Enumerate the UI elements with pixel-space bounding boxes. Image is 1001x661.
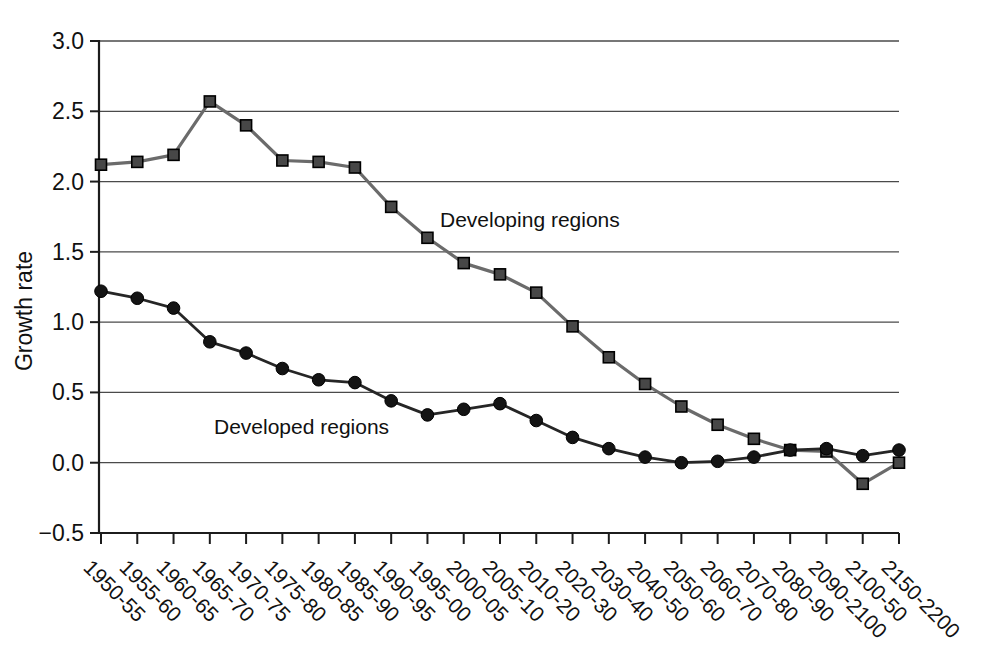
series-label-developed-regions: Developed regions: [214, 415, 389, 439]
y-tick-label: 3.0: [2, 28, 84, 54]
square-marker: [603, 352, 614, 363]
circle-marker: [711, 455, 724, 468]
circle-marker: [457, 403, 470, 416]
square-marker: [204, 96, 215, 107]
series-label-developing-regions: Developing regions: [440, 208, 620, 232]
circle-marker: [856, 449, 869, 462]
square-marker: [894, 457, 905, 468]
square-marker: [857, 478, 868, 489]
square-marker: [422, 232, 433, 243]
circle-marker: [95, 285, 108, 298]
circle-marker: [204, 336, 217, 349]
square-marker: [495, 269, 506, 280]
y-tick-label: 0.0: [2, 450, 84, 476]
square-marker: [458, 258, 469, 269]
growth-rate-chart: Growth rate 3.02.52.01.51.00.50.0−0.5 19…: [0, 0, 1001, 661]
circle-marker: [421, 409, 434, 422]
square-marker: [712, 419, 723, 430]
circle-marker: [639, 451, 652, 464]
circle-marker: [784, 444, 797, 457]
circle-marker: [893, 444, 906, 457]
circle-marker: [240, 347, 253, 360]
square-marker: [96, 159, 107, 170]
circle-marker: [312, 373, 325, 386]
circle-marker: [603, 442, 616, 455]
circle-marker: [385, 395, 398, 408]
square-marker: [531, 287, 542, 298]
circle-marker: [167, 302, 180, 315]
circle-marker: [675, 456, 688, 469]
square-marker: [349, 162, 360, 173]
circle-marker: [276, 362, 289, 375]
square-marker: [168, 149, 179, 160]
y-tick-label: 2.0: [2, 169, 84, 195]
square-marker: [640, 378, 651, 389]
square-marker: [277, 155, 288, 166]
circle-marker: [349, 376, 362, 389]
square-marker: [132, 156, 143, 167]
circle-marker: [748, 451, 761, 464]
square-marker: [386, 201, 397, 212]
circle-marker: [530, 414, 543, 427]
y-tick-label: 1.5: [2, 239, 84, 265]
circle-marker: [494, 397, 507, 410]
square-marker: [748, 433, 759, 444]
circle-marker: [131, 292, 144, 305]
square-marker: [313, 156, 324, 167]
square-marker: [567, 321, 578, 332]
y-tick-label: −0.5: [2, 520, 84, 546]
y-tick-label: 2.5: [2, 98, 84, 124]
circle-marker: [820, 442, 833, 455]
y-tick-label: 0.5: [2, 379, 84, 405]
square-marker: [676, 401, 687, 412]
square-marker: [241, 120, 252, 131]
circle-marker: [566, 431, 579, 444]
y-tick-label: 1.0: [2, 309, 84, 335]
